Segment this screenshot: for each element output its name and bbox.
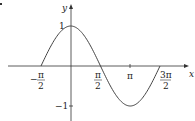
svg-text:π: π [95, 70, 101, 80]
bullet-dot [0, 3, 2, 5]
svg-text:2: 2 [95, 81, 101, 91]
svg-text:3π: 3π [160, 70, 172, 80]
svg-text:π: π [38, 70, 44, 80]
cosine-chart: x y 1 −1 − π 2 π 2 π 3π 2 [0, 0, 195, 121]
y-axis-label: y [61, 3, 68, 13]
y-tick-label-neg-one: −1 [55, 101, 68, 111]
x-axis-label: x [189, 69, 194, 79]
svg-text:2: 2 [163, 81, 169, 91]
x-tick-label-pi: π [127, 71, 133, 81]
x-tick-label-three-pi-half: 3π 2 [160, 70, 172, 91]
svg-text:−: − [30, 74, 38, 84]
y-tick-label-one: 1 [59, 21, 65, 31]
y-axis-arrow-icon [69, 4, 73, 9]
svg-text:2: 2 [38, 81, 44, 91]
x-tick-label-pi-half: π 2 [94, 70, 102, 91]
x-axis-arrow-icon [184, 64, 189, 68]
x-tick-label-neg-pi-half: − π 2 [30, 70, 45, 91]
